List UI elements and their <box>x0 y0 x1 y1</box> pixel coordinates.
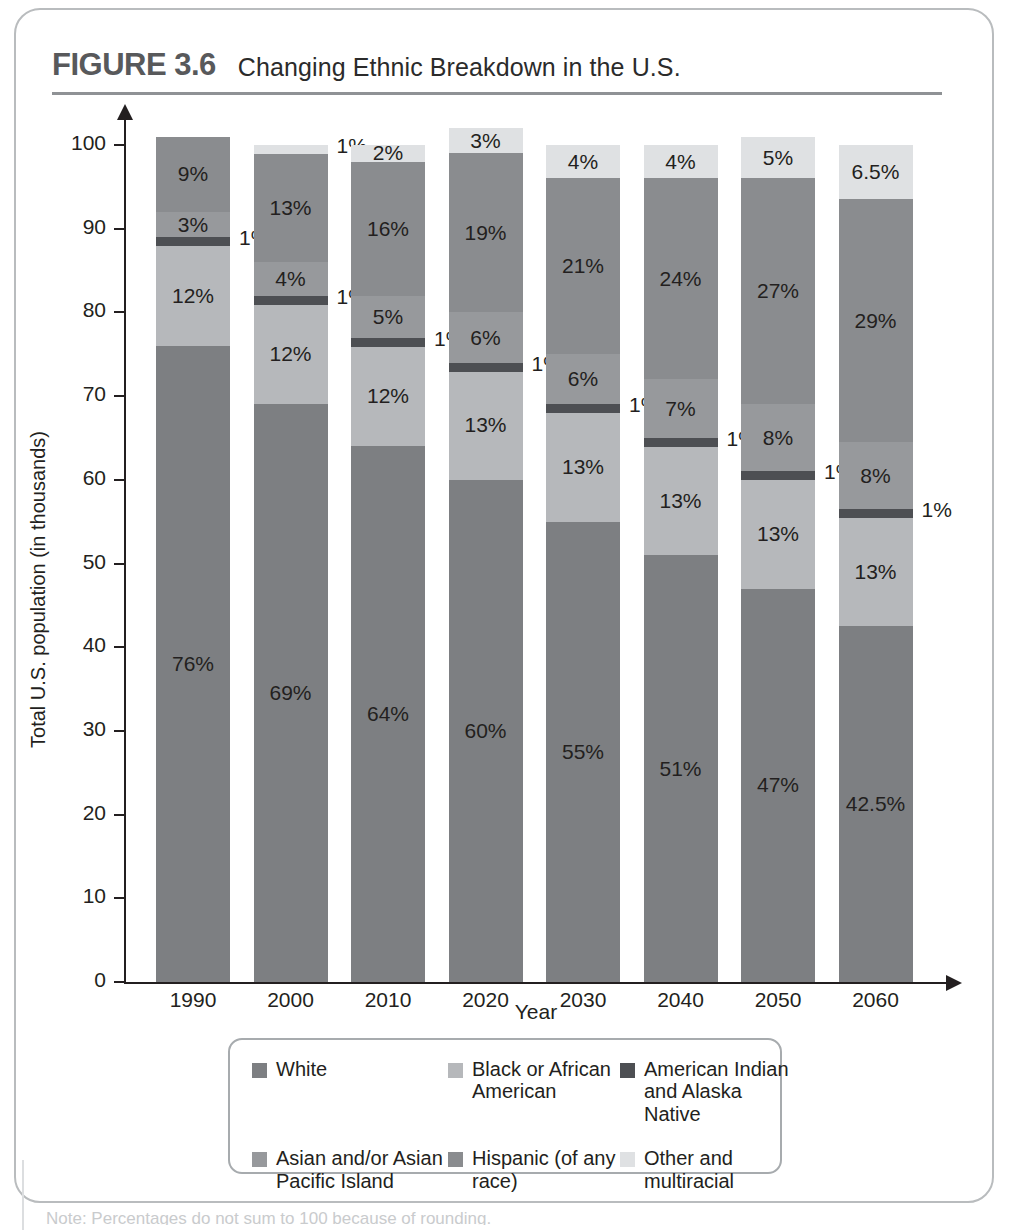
bar-segment-other-and-multiracial[interactable]: 1% <box>254 145 328 154</box>
bar-segment-hispanic-of-any-race[interactable]: 19% <box>449 153 523 312</box>
bar-segment-asian-and-or-asian-pacific-island[interactable]: 3% <box>156 212 230 237</box>
legend-label: American Indian and Alaska Native <box>644 1058 792 1125</box>
bar-segment-white[interactable]: 51% <box>644 555 718 982</box>
bar-segment-black-or-african-american[interactable]: 12% <box>351 346 425 446</box>
bar-segment-label: 3% <box>470 129 500 153</box>
bar-segment-white[interactable]: 60% <box>449 480 523 982</box>
bar-segment-label: 29% <box>854 309 896 333</box>
bar-segment-label: 8% <box>763 426 793 450</box>
bar-segment-label-external: 1% <box>922 498 952 522</box>
bar-segment-asian-and-or-asian-pacific-island[interactable]: 8% <box>741 404 815 471</box>
legend-item-white[interactable]: White <box>252 1058 448 1125</box>
bar-segment-hispanic-of-any-race[interactable]: 9% <box>156 137 230 212</box>
bar-segment-other-and-multiracial[interactable]: 5% <box>741 137 815 179</box>
bar-segment-black-or-african-american[interactable]: 13% <box>644 446 718 555</box>
legend-label: Other and multiracial <box>644 1147 792 1192</box>
bar-group-1990: 76%12%1%3%9%1990 <box>156 0 230 1230</box>
bar-segment-label: 13% <box>854 560 896 584</box>
bar-segment-label: 60% <box>464 719 506 743</box>
bar-segment-white[interactable]: 69% <box>254 404 328 982</box>
bar-segment-black-or-african-american[interactable]: 13% <box>839 517 913 626</box>
bar-segment-american-indian-and-alaska-native[interactable]: 1% <box>546 404 620 413</box>
bar-segment-hispanic-of-any-race[interactable]: 13% <box>254 153 328 262</box>
bar-segment-white[interactable]: 55% <box>546 522 620 982</box>
bar-segment-label: 51% <box>659 757 701 781</box>
bar-segment-other-and-multiracial[interactable]: 4% <box>546 145 620 178</box>
bar-segment-white[interactable]: 42.5% <box>839 626 913 982</box>
bar-segment-label: 4% <box>275 267 305 291</box>
bar-segment-label: 19% <box>464 221 506 245</box>
bar-segment-asian-and-or-asian-pacific-island[interactable]: 5% <box>351 296 425 338</box>
bar-segment-label: 12% <box>367 384 409 408</box>
bar-segment-label: 64% <box>367 702 409 726</box>
bar-segment-label: 47% <box>757 773 799 797</box>
bar-segment-label: 5% <box>763 146 793 170</box>
bar-segment-label: 13% <box>562 455 604 479</box>
x-axis-title: Year <box>124 1000 948 1024</box>
bar-segment-asian-and-or-asian-pacific-island[interactable]: 6% <box>449 312 523 362</box>
legend-swatch-icon <box>252 1152 267 1167</box>
legend-swatch-icon <box>252 1063 267 1078</box>
bar-segment-black-or-african-american[interactable]: 12% <box>156 245 230 345</box>
bar-segment-american-indian-and-alaska-native[interactable]: 1% <box>644 438 718 447</box>
bar-segment-asian-and-or-asian-pacific-island[interactable]: 8% <box>839 442 913 509</box>
bar-segment-other-and-multiracial[interactable]: 6.5% <box>839 145 913 199</box>
bar-segment-hispanic-of-any-race[interactable]: 29% <box>839 199 913 442</box>
bar-segment-asian-and-or-asian-pacific-island[interactable]: 4% <box>254 262 328 295</box>
legend-item-other-and-multiracial[interactable]: Other and multiracial <box>620 1147 792 1192</box>
legend-label: Hispanic (of any race) <box>472 1147 620 1192</box>
bar-segment-hispanic-of-any-race[interactable]: 24% <box>644 178 718 379</box>
bar-segment-white[interactable]: 76% <box>156 346 230 982</box>
bar-segment-hispanic-of-any-race[interactable]: 27% <box>741 178 815 404</box>
stacked-bar[interactable]: 76%12%1%3%9% <box>156 0 230 1230</box>
bar-segment-white[interactable]: 47% <box>741 589 815 982</box>
bar-segment-label: 42.5% <box>846 792 906 816</box>
bar-segment-other-and-multiracial[interactable]: 4% <box>644 145 718 178</box>
bar-segment-american-indian-and-alaska-native[interactable]: 1% <box>449 363 523 372</box>
bar-segment-label: 13% <box>464 413 506 437</box>
legend-swatch-icon <box>448 1152 463 1167</box>
bar-segment-label: 76% <box>172 652 214 676</box>
bar-segment-american-indian-and-alaska-native[interactable]: 1% <box>741 471 815 480</box>
bar-segment-label: 4% <box>568 150 598 174</box>
legend-item-american-indian-and-alaska-native[interactable]: American Indian and Alaska Native <box>620 1058 792 1125</box>
bar-segment-black-or-african-american[interactable]: 12% <box>254 304 328 404</box>
legend-label: Black or African American <box>472 1058 620 1103</box>
bar-segment-american-indian-and-alaska-native[interactable]: 1% <box>839 509 913 518</box>
bar-segment-hispanic-of-any-race[interactable]: 16% <box>351 162 425 296</box>
bar-segment-label: 12% <box>269 342 311 366</box>
bar-segment-asian-and-or-asian-pacific-island[interactable]: 7% <box>644 379 718 438</box>
stacked-bar[interactable]: 42.5%13%1%8%29%6.5% <box>839 0 913 1230</box>
bar-segment-label: 12% <box>172 284 214 308</box>
bar-segment-black-or-african-american[interactable]: 13% <box>741 480 815 589</box>
bar-segment-label: 6% <box>470 326 500 350</box>
legend-swatch-icon <box>620 1152 635 1167</box>
bar-segment-label: 21% <box>562 254 604 278</box>
bar-segment-hispanic-of-any-race[interactable]: 21% <box>546 178 620 354</box>
bar-segment-label: 24% <box>659 267 701 291</box>
bar-segment-label: 69% <box>269 681 311 705</box>
bar-group-2060: 42.5%13%1%8%29%6.5%2060 <box>839 0 913 1230</box>
bar-segment-black-or-african-american[interactable]: 13% <box>546 413 620 522</box>
bar-segment-label: 6.5% <box>852 160 900 184</box>
bar-segment-label: 16% <box>367 217 409 241</box>
bar-segment-black-or-african-american[interactable]: 13% <box>449 371 523 480</box>
legend-grid: WhiteBlack or African AmericanAmerican I… <box>252 1058 780 1192</box>
bar-segment-label: 5% <box>373 305 403 329</box>
bar-segment-other-and-multiracial[interactable]: 3% <box>449 128 523 153</box>
legend-swatch-icon <box>448 1063 463 1078</box>
bar-segment-american-indian-and-alaska-native[interactable]: 1% <box>156 237 230 246</box>
chart-legend: WhiteBlack or African AmericanAmerican I… <box>228 1038 782 1174</box>
legend-label: Asian and/or Asian Pacific Island <box>276 1147 448 1192</box>
bar-segment-label: 3% <box>178 213 208 237</box>
bar-segment-label: 9% <box>178 162 208 186</box>
bar-segment-label: 2% <box>373 141 403 165</box>
bar-segment-white[interactable]: 64% <box>351 446 425 982</box>
bar-segment-asian-and-or-asian-pacific-island[interactable]: 6% <box>546 354 620 404</box>
bar-segment-american-indian-and-alaska-native[interactable]: 1% <box>351 338 425 347</box>
legend-item-black-or-african-american[interactable]: Black or African American <box>448 1058 620 1125</box>
bar-segment-other-and-multiracial[interactable]: 2% <box>351 145 425 162</box>
legend-item-asian-and-or-asian-pacific-island[interactable]: Asian and/or Asian Pacific Island <box>252 1147 448 1192</box>
legend-item-hispanic[interactable]: Hispanic (of any race) <box>448 1147 620 1192</box>
bar-segment-american-indian-and-alaska-native[interactable]: 1% <box>254 296 328 305</box>
